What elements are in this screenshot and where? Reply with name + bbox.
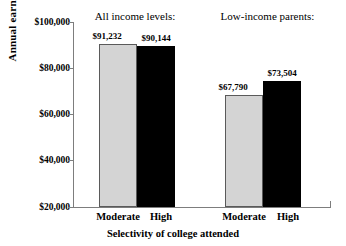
category-label-low-income-high: High <box>268 211 308 222</box>
y-tick-label-40000: $40,000 <box>14 155 70 165</box>
category-label-all-income-high: High <box>141 211 181 222</box>
bar-low-income-moderate[interactable] <box>225 95 263 207</box>
value-label-all-income-moderate: $91,232 <box>84 31 130 41</box>
value-label-low-income-moderate: $67,790 <box>210 82 256 92</box>
y-tick-label-20000: $20,000 <box>14 202 70 212</box>
x-axis-title: Selectivity of college attended <box>0 228 346 239</box>
value-label-all-income-high: $90,144 <box>133 33 179 43</box>
category-label-low-income-moderate: Moderate <box>213 211 275 222</box>
category-label-all-income-moderate: Moderate <box>87 211 149 222</box>
bar-low-income-high[interactable] <box>263 81 301 207</box>
y-tick-label-60000: $60,000 <box>14 109 70 119</box>
y-tick-label-80000: $80,000 <box>14 63 70 73</box>
bar-chart: Annual earnings $100,000 $80,000 $60,000… <box>0 0 346 246</box>
bar-all-income-high[interactable] <box>137 46 175 207</box>
bar-all-income-moderate[interactable] <box>99 44 137 207</box>
y-tick-label-100000: $100,000 <box>14 17 70 27</box>
y-axis-tick-labels: $100,000 $80,000 $60,000 $40,000 $20,000 <box>10 0 70 246</box>
value-label-low-income-high: $73,504 <box>259 68 305 78</box>
